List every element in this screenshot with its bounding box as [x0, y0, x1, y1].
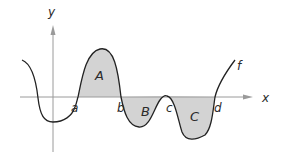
point-label-d: d — [214, 101, 222, 115]
x-axis-arrow-icon — [243, 95, 253, 100]
point-label-c: c — [166, 101, 173, 115]
region-label-c: C — [190, 109, 200, 124]
x-axis-label: x — [261, 91, 270, 105]
function-label: f — [237, 59, 243, 73]
point-label-a: a — [71, 101, 78, 115]
area-under-curve-diagram: y x f A B C a b c d — [0, 0, 281, 159]
region-label-b: B — [141, 104, 150, 119]
point-label-b: b — [117, 101, 125, 115]
y-axis-arrow-icon — [51, 25, 56, 35]
y-axis-label: y — [47, 5, 56, 19]
region-label-a: A — [94, 68, 104, 83]
